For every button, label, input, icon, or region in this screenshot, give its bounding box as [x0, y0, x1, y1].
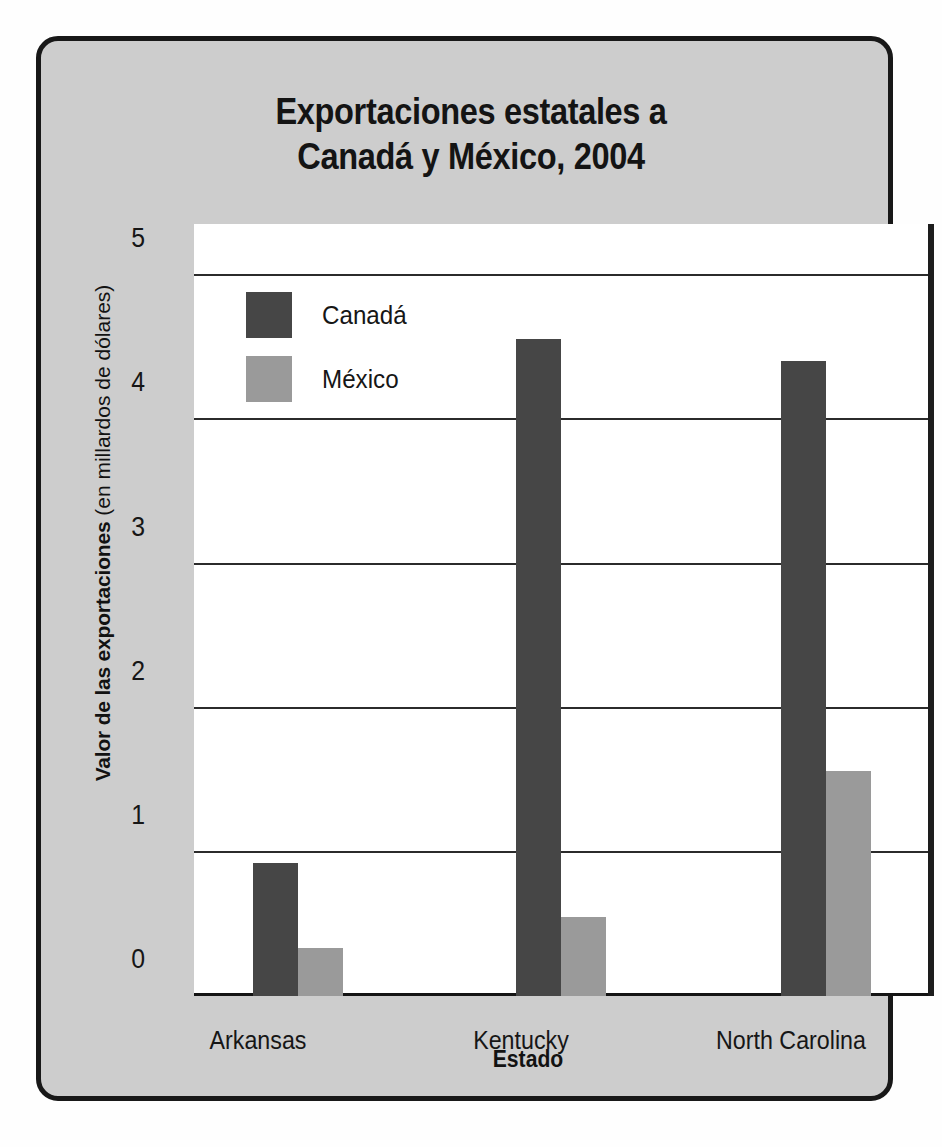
legend-item-mexico: México — [246, 353, 413, 405]
legend-swatch-mexico — [246, 356, 292, 402]
plot-inner: Canadá México — [194, 224, 928, 996]
bar-kentucky-mexico — [561, 917, 606, 996]
y-axis-title-main: Valor de las exportaciones — [91, 522, 114, 782]
bar-northcarolina-canada — [781, 361, 826, 996]
y-axis-title-units: (en millardos de dólares) — [91, 285, 114, 522]
legend-label-mexico: México — [322, 364, 399, 395]
bar-arkansas-mexico — [298, 948, 343, 996]
bar-arkansas-canada — [253, 863, 298, 996]
legend-swatch-canada — [246, 292, 292, 338]
chart-page: Exportaciones estatales a Canadá y Méxic… — [0, 0, 942, 1147]
y-axis-title: Valor de las exportaciones (en millardos… — [91, 183, 115, 883]
chart-title: Exportaciones estatales a Canadá y Méxic… — [163, 89, 779, 179]
bar-kentucky-canada — [516, 339, 561, 996]
chart-panel: Exportaciones estatales a Canadá y Méxic… — [36, 36, 893, 1101]
legend: Canadá México — [246, 289, 413, 417]
legend-item-canada: Canadá — [246, 289, 413, 341]
x-axis-title: Estado — [188, 1046, 869, 1073]
ytick-label-0: 0 — [103, 946, 145, 973]
bar-northcarolina-mexico — [826, 771, 871, 996]
plot-area: Canadá México — [194, 224, 934, 996]
gridline-5 — [194, 274, 928, 276]
legend-label-canada: Canadá — [322, 300, 407, 331]
